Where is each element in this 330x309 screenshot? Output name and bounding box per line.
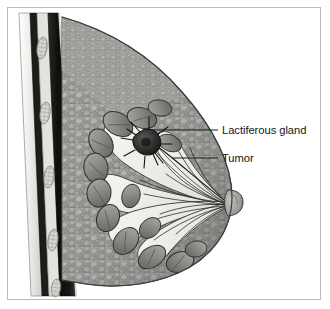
nipple-group [225,190,243,216]
nipple [225,190,243,216]
label-text-tumor: Tumor [222,152,254,164]
breast-anatomy-illustration: Lactiferous gland Tumor [0,0,330,309]
label-text-lactiferous-gland: Lactiferous gland [222,124,306,136]
tumor-dense-center [141,138,151,147]
breast-body-group [62,17,243,286]
illustration-figure: Lactiferous gland Tumor [0,0,330,309]
